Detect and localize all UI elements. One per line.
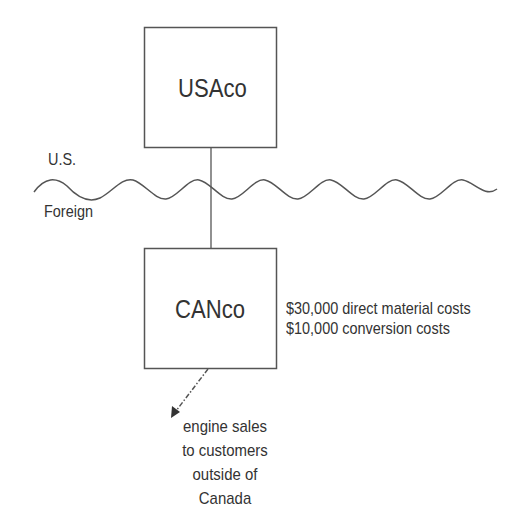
usaco-label: USAco <box>178 73 247 104</box>
canco-label: CANco <box>175 294 245 325</box>
border-wave <box>34 180 497 200</box>
sales-note-line: Canada <box>172 487 278 511</box>
sales-note-line: outside of <box>172 463 278 487</box>
sales-note: engine sales to customers outside of Can… <box>172 415 278 511</box>
direct-material-cost: $30,000 direct material costs <box>286 299 471 319</box>
sales-note-line: to customers <box>172 439 278 463</box>
us-region-label: U.S. <box>48 150 76 170</box>
conversion-cost: $10,000 conversion costs <box>286 319 450 339</box>
sales-note-line: engine sales <box>172 415 278 439</box>
sales-arrow-line <box>176 369 208 411</box>
foreign-region-label: Foreign <box>44 202 93 222</box>
